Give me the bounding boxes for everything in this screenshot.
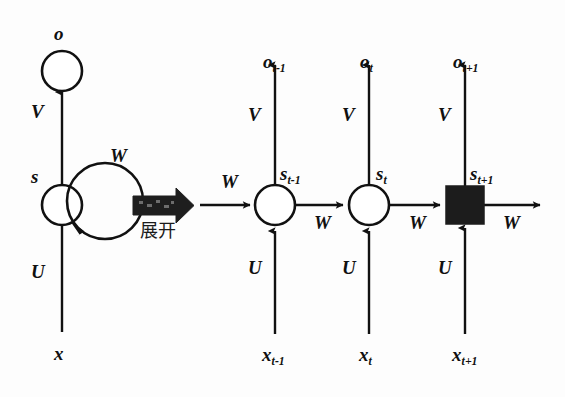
unfolded-input-subscript-step-1: t-1 [272, 355, 285, 368]
unfolded-state-symbol-step-2: s [376, 163, 383, 184]
unfold-caption: 展开 [140, 222, 176, 240]
unfolded-state-symbol-step-1: s [280, 163, 287, 184]
unfolded-input-label-step-1: xt-1 [262, 345, 285, 364]
unfolded-state-subscript-step-2: t [384, 174, 387, 187]
folded-output-label: o [54, 24, 64, 43]
folded-output-node [42, 51, 82, 91]
unfolded-state-symbol-step-3: s [470, 163, 477, 184]
unfolded-weight-w-incoming-label: W [221, 172, 238, 191]
unfolded-output-label-step-2: ot [360, 52, 373, 71]
unfolded-input-symbol-step-1: x [262, 344, 272, 365]
unfolded-weight-v-label-step-1: V [248, 105, 261, 124]
unfolded-weight-w-label-step-3: W [503, 213, 520, 232]
unfolded-output-symbol-step-3: o [453, 51, 463, 72]
unfolded-weight-w-label-step-1: W [314, 213, 331, 232]
unfolded-input-label-step-2: xt [359, 345, 372, 364]
unfolded-input-subscript-step-2: t [369, 355, 372, 368]
unfolded-output-symbol-step-2: o [360, 51, 370, 72]
unfolded-input-symbol-step-3: x [452, 344, 462, 365]
unfolded-state-label-step-1: st-1 [280, 164, 300, 183]
unfolded-input-label-step-3: xt+1 [452, 345, 477, 364]
unfolded-weight-w-label-step-2: W [409, 213, 426, 232]
unfolded-weight-v-label-step-3: V [438, 105, 451, 124]
folded-state-label: s [31, 167, 38, 186]
unfolded-state-node-step-1 [255, 185, 295, 225]
unfolded-weight-u-label-step-3: U [438, 258, 452, 277]
folded-weight-w-label: W [110, 146, 127, 165]
folded-weight-v-label: V [31, 102, 44, 121]
unfolded-input-subscript-step-3: t+1 [462, 355, 478, 368]
rnn-unfold-diagram: o V s U x W 展开 W W W W ot-1 V st-1 U xt-… [0, 0, 565, 397]
folded-input-label: x [54, 344, 64, 363]
folded-weight-u-label: U [31, 262, 45, 281]
unfolded-state-subscript-step-1: t-1 [288, 174, 301, 187]
unfolded-output-subscript-step-1: t-1 [273, 62, 286, 75]
unfolded-state-label-step-2: st [376, 164, 387, 183]
unfolded-weight-v-label-step-2: V [342, 105, 355, 124]
unfolded-output-label-step-3: ot+1 [453, 52, 478, 71]
unfolded-output-label-step-1: ot-1 [263, 52, 286, 71]
unfolded-weight-u-label-step-2: U [342, 258, 356, 277]
unfolded-output-symbol-step-1: o [263, 51, 273, 72]
unfolded-state-subscript-step-3: t+1 [478, 174, 494, 187]
unfolded-output-subscript-step-3: t+1 [463, 62, 479, 75]
unfolded-output-subscript-step-2: t [370, 62, 373, 75]
unfolded-weight-u-label-step-1: U [248, 258, 262, 277]
unfolded-state-label-step-3: st+1 [470, 164, 493, 183]
unfolded-state-node-step-3 [446, 186, 484, 224]
unfolded-state-node-step-2 [349, 185, 389, 225]
unfolded-input-symbol-step-2: x [359, 344, 369, 365]
folded-recurrent-loop-arrowhead [71, 222, 85, 237]
folded-state-node [42, 185, 82, 225]
